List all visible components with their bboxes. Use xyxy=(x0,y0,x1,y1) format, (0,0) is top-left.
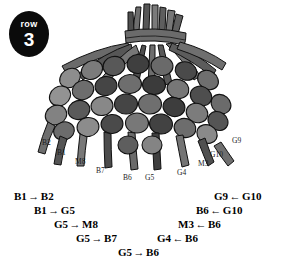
arrow-left-icon: ← xyxy=(209,204,223,216)
step-from: G4 xyxy=(157,232,171,244)
step-to: G5 xyxy=(61,204,75,216)
arrow-left-icon: ← xyxy=(228,190,242,202)
arrow-right-icon: → xyxy=(47,204,61,216)
arrow-left-icon: ← xyxy=(171,232,185,244)
step-from: G9 xyxy=(214,190,228,202)
bead-label-g10: G10 xyxy=(210,150,223,159)
bead-label-b2: B2 xyxy=(42,138,51,147)
bead-label-g4: G4 xyxy=(177,168,186,177)
bead-label-g9: G9 xyxy=(232,136,241,145)
step-to: B7 xyxy=(104,232,117,244)
bead-label-m8: M8 xyxy=(75,157,85,166)
instruction-left-4: G5→B7 xyxy=(76,232,117,244)
instruction-right-1: G9←G10 xyxy=(214,190,262,202)
beaded-tassel-illustration xyxy=(0,0,284,196)
arrow-right-icon: → xyxy=(27,190,41,202)
bead-label-m3: M3 xyxy=(198,159,208,168)
instruction-left-5: G5→B6 xyxy=(118,246,159,258)
arrow-right-icon: → xyxy=(68,218,82,230)
instruction-left-2: B1→G5 xyxy=(34,204,75,216)
fringe-beads xyxy=(118,136,162,154)
knot-binding xyxy=(125,29,186,45)
instruction-right-3: M3←B6 xyxy=(178,218,221,230)
instruction-list: B1→B2 B1→G5 G5→M8 G5→B7 G5→B6 G9←G10 B6←… xyxy=(0,188,284,270)
instruction-left-1: B1→B2 xyxy=(14,190,54,202)
arrow-left-icon: ← xyxy=(194,218,208,230)
bead-label-b6: B6 xyxy=(123,173,132,182)
step-from: M3 xyxy=(178,218,194,230)
step-to: G10 xyxy=(242,190,262,202)
arrow-right-icon: → xyxy=(132,246,146,258)
bead-label-b1: B1 xyxy=(57,148,66,157)
instruction-right-2: B6←G10 xyxy=(196,204,242,216)
arrow-right-icon: → xyxy=(90,232,104,244)
step-to: B6 xyxy=(208,218,221,230)
step-to: M8 xyxy=(82,218,98,230)
step-from: G5 xyxy=(76,232,90,244)
instruction-left-3: G5→M8 xyxy=(54,218,98,230)
bead-label-g5: G5 xyxy=(145,173,154,182)
step-to: B6 xyxy=(185,232,198,244)
step-from: G5 xyxy=(118,246,132,258)
bead-label-b7: B7 xyxy=(96,166,105,175)
step-to: B6 xyxy=(146,246,159,258)
step-from: B6 xyxy=(196,204,209,216)
instruction-right-4: G4←B6 xyxy=(157,232,198,244)
step-from: G5 xyxy=(54,218,68,230)
step-from: B1 xyxy=(14,190,27,202)
step-from: B1 xyxy=(34,204,47,216)
step-to: B2 xyxy=(41,190,54,202)
step-to: G10 xyxy=(223,204,243,216)
diagram-canvas: row 3 xyxy=(0,0,284,270)
